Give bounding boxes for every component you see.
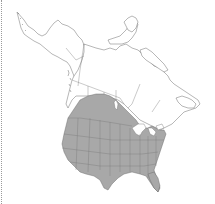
map-frame [0, 0, 215, 204]
north-america-range-map [0, 0, 215, 204]
alaska-landmass [17, 12, 86, 80]
